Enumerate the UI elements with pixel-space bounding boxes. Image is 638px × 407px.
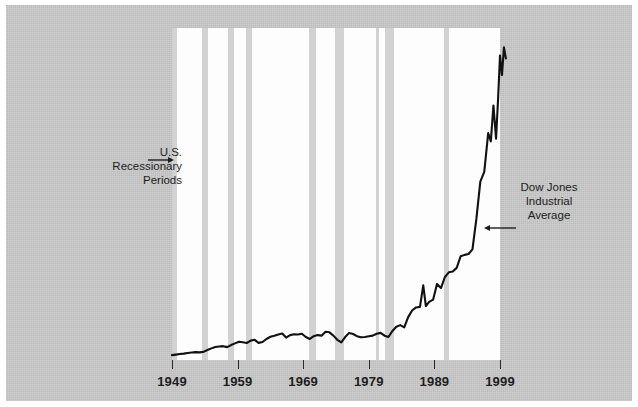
x-tick-label: 1979 — [354, 374, 384, 389]
x-tick-label: 1959 — [223, 374, 253, 389]
arrow-right-icon — [148, 156, 174, 164]
x-tick-mark — [500, 360, 501, 369]
recession-annotation: U.S. Recessionary Periods — [86, 145, 182, 187]
dow-annotation: Dow Jones Industrial Average — [490, 180, 608, 222]
dow-jones-series — [172, 28, 500, 360]
x-tick-mark — [369, 360, 370, 369]
arrow-left-icon — [484, 224, 516, 232]
dow-annotation-line-3: Average — [490, 208, 608, 222]
x-tick-label: 1969 — [288, 374, 318, 389]
x-tick-label: 1989 — [420, 374, 450, 389]
dow-jones-line — [172, 47, 506, 355]
recession-annotation-line-3: Periods — [86, 173, 182, 187]
x-tick-label: 1999 — [485, 374, 515, 389]
plot-area — [172, 28, 500, 360]
x-tick-mark — [434, 360, 435, 369]
x-tick-mark — [238, 360, 239, 369]
dow-jones-recessions-figure: 194919591969197919891999 U.S. Recessiona… — [0, 0, 638, 407]
dow-annotation-line-1: Dow Jones — [490, 180, 608, 194]
dow-annotation-line-2: Industrial — [490, 194, 608, 208]
x-tick-label: 1949 — [157, 374, 187, 389]
x-axis-ticks — [172, 360, 500, 370]
x-tick-mark — [303, 360, 304, 369]
x-tick-mark — [172, 360, 173, 369]
